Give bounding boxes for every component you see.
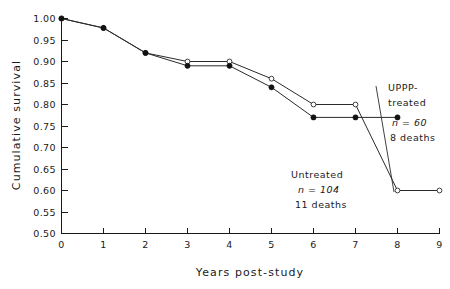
- y-tick-label: 0.90: [33, 56, 56, 67]
- uppp-n-label: n = 60: [392, 117, 427, 128]
- uppp-label-line1: UPPP-: [388, 82, 418, 93]
- uppp-treated-data-point: [101, 25, 106, 30]
- y-tick-label: 0.60: [33, 185, 56, 196]
- untreated-deaths-label: 11 deaths: [295, 199, 347, 210]
- y-tick-label: 0.80: [33, 99, 56, 110]
- annotation-uppp-treated: UPPP- treated n = 60 8 deaths: [388, 82, 435, 143]
- x-axis-title: Years post-study: [195, 266, 304, 279]
- y-tick-label: 0.65: [33, 164, 56, 175]
- survival-chart-figure: 0.50 0.55 0.60 0.65 0.70 0.75 0.80 0.85 …: [0, 0, 450, 289]
- y-tickmarks-group: [62, 19, 68, 234]
- y-tick-label: 0.85: [33, 78, 56, 89]
- uppp-treated-data-point: [353, 115, 358, 120]
- x-tick-label: 9: [436, 239, 442, 250]
- uppp-treated-data-point: [185, 63, 190, 68]
- x-tick-label: 7: [352, 239, 358, 250]
- x-tick-label: 2: [142, 239, 148, 250]
- uppp-treated-data-point: [269, 85, 274, 90]
- x-tick-label: 0: [58, 239, 64, 250]
- uppp-treated-data-point: [143, 50, 148, 55]
- x-tick-label: 4: [226, 239, 232, 250]
- x-tick-labels-group: 0 1 2 3 4 5 6 7 8 9: [58, 239, 442, 250]
- untreated-data-point: [395, 188, 400, 193]
- untreated-data-point: [311, 102, 316, 107]
- y-axis-title: Cumulative survival: [10, 60, 23, 190]
- y-tick-label: 0.70: [33, 142, 56, 153]
- x-tick-label: 8: [394, 239, 400, 250]
- uppp-treated-data-point: [311, 115, 316, 120]
- y-tick-label: 0.95: [33, 35, 56, 46]
- uppp-label-line2: treated: [388, 97, 426, 108]
- untreated-markers: [59, 16, 442, 193]
- x-tick-label: 1: [100, 239, 106, 250]
- untreated-data-point: [269, 76, 274, 81]
- uppp-deaths-label: 8 deaths: [390, 132, 435, 143]
- y-tick-labels-group: 0.50 0.55 0.60 0.65 0.70 0.75 0.80 0.85 …: [33, 13, 56, 239]
- untreated-data-point: [353, 102, 358, 107]
- untreated-line: [62, 19, 440, 191]
- y-tick-label: 0.50: [33, 228, 56, 239]
- y-tick-label: 0.75: [33, 121, 56, 132]
- series-untreated: [59, 16, 442, 193]
- y-tick-label: 0.55: [33, 207, 56, 218]
- untreated-data-point: [437, 188, 442, 193]
- uppp-treated-data-point: [59, 16, 64, 21]
- y-tick-label: 1.00: [33, 13, 56, 24]
- x-tickmarks-group: [62, 228, 440, 234]
- uppp-treated-data-point: [227, 63, 232, 68]
- untreated-label: Untreated: [291, 169, 343, 180]
- x-tick-label: 3: [184, 239, 190, 250]
- chart-canvas: 0.50 0.55 0.60 0.65 0.70 0.75 0.80 0.85 …: [0, 0, 450, 289]
- untreated-n-label: n = 104: [298, 184, 340, 195]
- annotation-untreated: Untreated n = 104 11 deaths: [291, 169, 347, 210]
- x-tick-label: 5: [268, 239, 274, 250]
- x-tick-label: 6: [310, 239, 316, 250]
